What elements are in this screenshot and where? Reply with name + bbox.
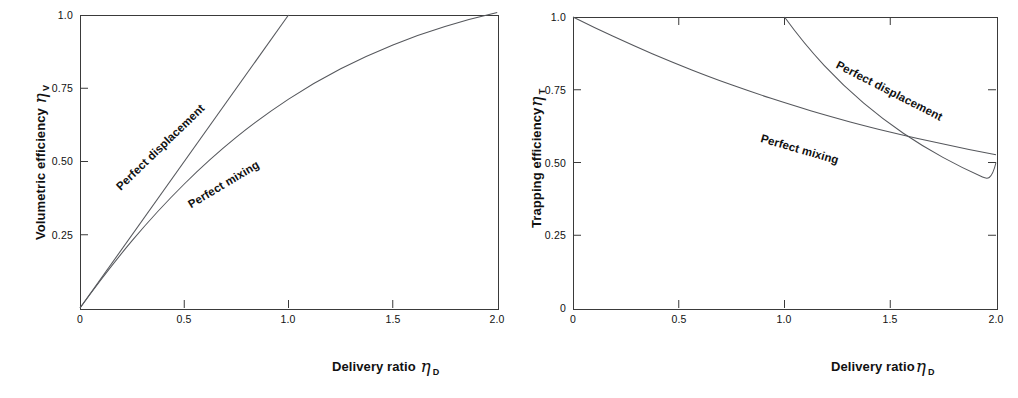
y-axis-title-right: Trapping efficiencyηT <box>526 89 547 228</box>
xtick-label: 1.0 <box>776 313 791 325</box>
xtick-label: 1.5 <box>385 313 400 325</box>
volumetric-efficiency-chart: 0 0.5 1.0 1.5 2.0 0.25 0.50 0.75 1.0 Vol… <box>0 0 509 398</box>
xtick-label: 1.5 <box>882 313 897 325</box>
y-axis-title-subscript: T <box>537 89 547 96</box>
ytick-label: 1.0 <box>535 11 566 23</box>
plot-curves-right <box>509 0 1018 398</box>
eta-symbol-icon: η <box>526 95 546 107</box>
trapping-efficiency-chart: 0 0.5 1.0 1.5 2.0 0 0.25 0.50 0.75 1.0 T… <box>509 0 1018 398</box>
eta-symbol-icon: η <box>30 92 50 104</box>
xtick-label: 2.0 <box>489 313 504 325</box>
y-axis-title-left: Volumetric efficiency ηV <box>30 85 51 240</box>
xtick-label: 0.5 <box>671 313 686 325</box>
eta-symbol-icon: η <box>420 356 432 376</box>
tick-marks-right <box>573 17 996 308</box>
tick-marks-left <box>80 88 393 308</box>
xtick-label: 2.0 <box>988 313 1003 325</box>
x-axis-title-text: Delivery ratio <box>831 359 915 374</box>
x-axis-title-subscript: D <box>927 367 935 377</box>
xtick-label: 0 <box>77 313 83 325</box>
curve-perfect-mixing-right <box>573 17 996 155</box>
xtick-label: 0 <box>570 313 576 325</box>
figure-canvas: 0 0.5 1.0 1.5 2.0 0.25 0.50 0.75 1.0 Vol… <box>0 0 1018 398</box>
y-axis-title-text: Trapping efficiency <box>529 108 544 228</box>
y-axis-title-text: Volumetric efficiency <box>33 104 48 240</box>
xtick-label: 1.0 <box>280 313 295 325</box>
ytick-label: 0 <box>535 302 566 314</box>
ytick-label: 1.0 <box>42 9 73 21</box>
xtick-label: 0.5 <box>176 313 191 325</box>
x-axis-title-left: Delivery ratio ηD <box>332 356 439 377</box>
x-axis-title-text: Delivery ratio <box>332 359 420 374</box>
x-axis-title-right: Delivery ratioηD <box>831 356 935 377</box>
y-axis-title-subscript: V <box>41 85 51 92</box>
ytick-label: 0.25 <box>535 229 566 241</box>
plot-curves-left <box>0 0 509 398</box>
eta-symbol-icon: η <box>915 356 927 376</box>
x-axis-title-subscript: D <box>432 367 440 377</box>
